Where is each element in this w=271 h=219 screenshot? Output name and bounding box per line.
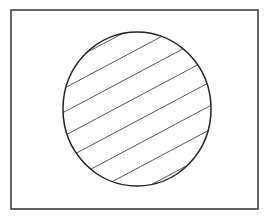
venn-diagram [0, 0, 271, 219]
universal-set-rectangle [11, 10, 258, 209]
